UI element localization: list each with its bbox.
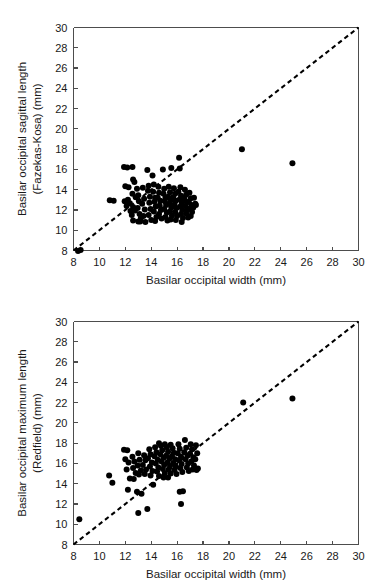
- x-tick-label: 26: [301, 256, 313, 268]
- data-point: [137, 457, 143, 463]
- y-tick-label: 14: [55, 478, 67, 490]
- y-tick-label: 12: [55, 498, 67, 510]
- data-point: [142, 471, 148, 477]
- y-tick-label: 10: [55, 224, 67, 236]
- y-tick-label: 26: [55, 356, 67, 368]
- data-point: [193, 202, 199, 208]
- x-tick-label: 24: [275, 256, 287, 268]
- data-point: [139, 201, 145, 207]
- data-point: [125, 487, 131, 493]
- data-point: [168, 442, 174, 448]
- y-tick-label: 30: [55, 316, 67, 328]
- data-point: [188, 441, 194, 447]
- data-point: [168, 165, 174, 171]
- data-point: [160, 166, 166, 172]
- data-point: [162, 441, 168, 447]
- x-axis-title-top: Basilar occipital width (mm): [146, 274, 286, 286]
- x-tick-label: 28: [326, 550, 338, 562]
- data-point: [126, 459, 132, 465]
- data-point: [289, 160, 295, 166]
- x-tick-label: 18: [197, 256, 209, 268]
- data-point: [192, 456, 198, 462]
- data-point: [180, 488, 186, 494]
- data-point: [148, 473, 154, 479]
- x-tick-label: 26: [301, 550, 313, 562]
- data-point: [144, 167, 150, 173]
- scatter-panel-top: 8101214161820222426283081012141618202224…: [0, 0, 380, 294]
- data-point: [122, 198, 128, 204]
- data-point: [173, 217, 179, 223]
- y-tick-label: 28: [55, 42, 67, 54]
- data-point: [135, 462, 141, 468]
- data-point: [139, 491, 145, 497]
- x-axis-title-bottom: Basilar occipital width (mm): [146, 568, 286, 580]
- data-point: [124, 447, 130, 453]
- data-points-bottom: [76, 396, 295, 523]
- data-point: [151, 208, 157, 214]
- data-point: [289, 396, 295, 402]
- x-tick-label: 20: [223, 256, 235, 268]
- y-tick-label: 22: [55, 103, 67, 115]
- y-tick-label: 30: [55, 22, 67, 34]
- x-tick-label: 14: [145, 256, 157, 268]
- y-tick-label: 10: [55, 518, 67, 530]
- data-point: [145, 188, 151, 194]
- data-point: [150, 172, 156, 178]
- x-tick-label: 24: [275, 550, 287, 562]
- data-point: [124, 164, 130, 170]
- y-tick-label: 26: [55, 62, 67, 74]
- data-point: [152, 218, 158, 224]
- x-tick-label: 12: [119, 550, 131, 562]
- data-point: [135, 192, 141, 198]
- x-tick-label: 16: [171, 550, 183, 562]
- data-point: [135, 205, 141, 211]
- data-point: [146, 200, 152, 206]
- x-tick-label: 22: [249, 550, 261, 562]
- y-axis-title-line2-bottom: (Redfield) (mm): [31, 393, 43, 473]
- y-axis-title-line1-top: Basilar occipital sagittal length: [16, 62, 28, 216]
- data-point: [155, 184, 161, 190]
- y-tick-label: 18: [55, 437, 67, 449]
- data-point: [135, 450, 141, 456]
- y-tick-label: 8: [61, 245, 67, 257]
- data-point: [142, 206, 148, 212]
- y-axis-title-line2-top: (Fazekas-Kosa) (mm): [31, 83, 43, 194]
- data-point: [78, 247, 84, 253]
- data-point: [144, 506, 150, 512]
- x-tick-label: 8: [70, 550, 76, 562]
- scatter-plot-top: 8101214161820222426283081012141618202224…: [0, 0, 380, 294]
- data-point: [179, 469, 185, 475]
- data-point: [134, 186, 140, 192]
- data-point: [147, 194, 153, 200]
- y-tick-label: 22: [55, 397, 67, 409]
- x-tick-label: 12: [119, 256, 131, 268]
- y-tick-label: 8: [61, 539, 67, 551]
- y-tick-label: 28: [55, 336, 67, 348]
- data-point: [191, 195, 197, 201]
- data-point: [178, 501, 184, 507]
- figure-page: 8101214161820222426283081012141618202224…: [0, 0, 380, 588]
- data-point: [240, 400, 246, 406]
- y-tick-label: 24: [55, 376, 67, 388]
- x-tick-label: 28: [326, 256, 338, 268]
- x-tick-label: 20: [223, 550, 235, 562]
- y-tick-label: 16: [55, 163, 67, 175]
- y-tick-label: 12: [55, 204, 67, 216]
- data-point: [194, 450, 200, 456]
- data-point: [177, 165, 183, 171]
- data-point: [142, 219, 148, 225]
- y-tick-label: 24: [55, 82, 67, 94]
- x-tick-label: 10: [93, 550, 105, 562]
- y-axis-title-line1-bottom: Basilar occipital maximum length: [16, 349, 28, 516]
- data-point: [239, 146, 245, 152]
- x-tick-label: 14: [145, 550, 157, 562]
- x-tick-label: 18: [197, 550, 209, 562]
- data-point: [179, 219, 185, 225]
- data-points-top: [75, 146, 295, 254]
- data-point: [136, 472, 142, 478]
- scatter-plot-bottom: 8101214161820222426283081012141618202224…: [0, 294, 380, 588]
- data-point: [188, 213, 194, 219]
- axis-tick-labels-bottom: 8101214161820222426283081012141618202224…: [55, 316, 364, 562]
- data-point: [131, 179, 137, 185]
- data-point: [186, 190, 192, 196]
